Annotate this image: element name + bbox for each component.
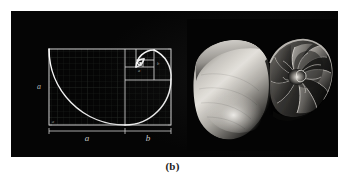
nautilus-svg — [187, 19, 337, 151]
golden-spiral-svg: a a b a b a — [27, 27, 185, 147]
label-bottom-right: b — [146, 133, 151, 143]
label-left-side: a — [37, 82, 41, 91]
diagram-grid — [49, 49, 171, 125]
figure-caption: (b) — [0, 160, 345, 172]
golden-spiral-diagram: a a b a b a — [27, 27, 185, 147]
photo-grain-overlay — [187, 19, 337, 151]
bottom-dimension-rule — [49, 128, 171, 134]
figure-panel-b: a a b a b a — [0, 0, 345, 187]
label-bottom-left: a — [85, 133, 90, 143]
image-plate: a a b a b a — [11, 11, 338, 157]
nautilus-photo — [187, 19, 337, 151]
